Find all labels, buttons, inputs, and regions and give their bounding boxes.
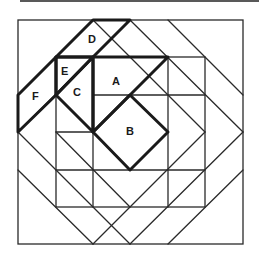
label-f: F	[32, 90, 39, 102]
label-c: C	[73, 86, 81, 98]
label-d: D	[88, 33, 96, 45]
quilt-block-diagram: A B C D E F	[0, 0, 259, 260]
label-b: B	[126, 125, 134, 137]
label-a: A	[112, 75, 120, 87]
label-e: E	[61, 65, 68, 77]
